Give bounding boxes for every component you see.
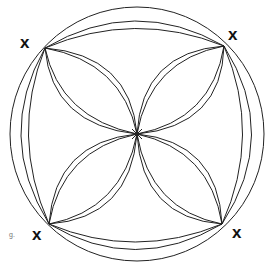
marker-bottom-left: x: [32, 226, 41, 243]
marker-top-left: x: [20, 34, 29, 51]
arc-bottom-inner: [49, 224, 222, 242]
petal-top-left: [45, 48, 137, 134]
arc-left-inner: [28, 48, 49, 224]
petal-top-right: [137, 46, 224, 134]
petal-bottom-left: [49, 134, 137, 224]
figure-caption: g.: [9, 231, 15, 238]
marker-bottom-right: x: [232, 224, 241, 241]
arc-right-inner: [222, 46, 243, 224]
arc-top-inner: [45, 28, 224, 48]
arc-bottom-outer: [49, 224, 222, 250]
petal-bottom-right: [137, 134, 222, 224]
marker-top-right: x: [228, 26, 237, 43]
diagram: x x x x g.: [0, 0, 267, 268]
